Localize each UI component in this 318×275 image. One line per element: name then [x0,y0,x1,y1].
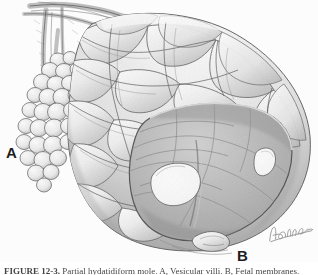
label-a: A [6,145,17,160]
medical-illustration [0,0,318,262]
caption-number: FIGURE 12-3. [4,267,60,275]
caption-text: Partial hydatidiform mole. A, Vesicular … [62,267,299,275]
figure-caption: FIGURE 12-3. Partial hydatidiform mole. … [0,267,318,275]
figure-root: A B FIGURE 12-3. Partial hydatidiform mo… [0,0,318,275]
label-b: B [237,248,248,263]
